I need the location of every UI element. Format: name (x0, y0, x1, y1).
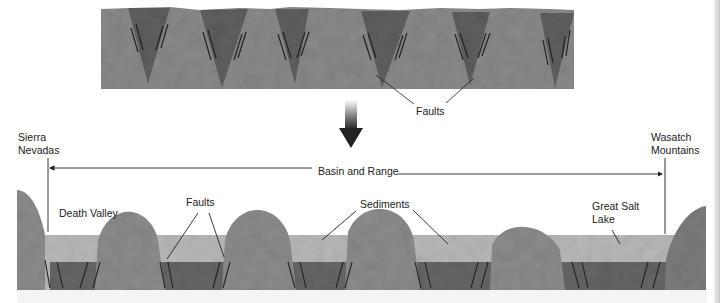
top-faults-label: Faults (416, 105, 445, 117)
basin-and-range-label: Basin and Range (318, 165, 399, 177)
sediments-label: Sediments (360, 198, 410, 210)
sierra-nevadas-label-1: Sierra (18, 131, 46, 143)
page-edge (714, 0, 720, 303)
great-salt-lake-label-2: Lake (592, 213, 615, 225)
death-valley-label: Death Valley (59, 207, 118, 219)
wasatch-mountains-label-1: Wasatch (651, 131, 691, 143)
transition-arrow-icon (339, 100, 363, 148)
basin-and-range-diagram: Faults Sierra Nevadas Wasatch Mountains … (0, 0, 720, 303)
sierra-nevadas-label-2: Nevadas (18, 144, 59, 156)
bottom-faults-label: Faults (186, 196, 215, 208)
great-salt-lake-label-1: Great Salt (592, 200, 639, 212)
diagram-graphic (0, 0, 720, 303)
top-crust-block (101, 7, 574, 89)
wasatch-mountains-label-2: Mountains (651, 144, 699, 156)
